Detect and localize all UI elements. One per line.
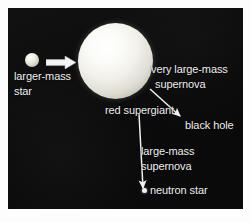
label-very-large-mass-supernova-line2: supernova bbox=[155, 78, 205, 90]
label-red-supergiant: red supergiant bbox=[105, 104, 174, 116]
diagram-panel: larger-mass star red supergiant very lar… bbox=[8, 8, 243, 209]
larger-mass-star-sphere bbox=[25, 53, 39, 67]
evolution-block-arrow-icon bbox=[46, 55, 76, 68]
label-large-mass-supernova-line1: large-mass bbox=[141, 145, 194, 157]
label-black-hole: black hole bbox=[185, 119, 234, 131]
neutron-star-point bbox=[142, 188, 147, 193]
label-larger-mass-star-line1: larger-mass bbox=[14, 70, 71, 82]
label-very-large-mass-supernova-line1: very large-mass bbox=[151, 63, 228, 75]
label-neutron-star: neutron star bbox=[150, 184, 208, 196]
label-larger-mass-star-line2: star bbox=[14, 85, 32, 97]
stellar-evolution-figure: larger-mass star red supergiant very lar… bbox=[0, 0, 251, 222]
label-large-mass-supernova-line2: supernova bbox=[141, 160, 191, 172]
red-supergiant-sphere bbox=[78, 23, 153, 99]
